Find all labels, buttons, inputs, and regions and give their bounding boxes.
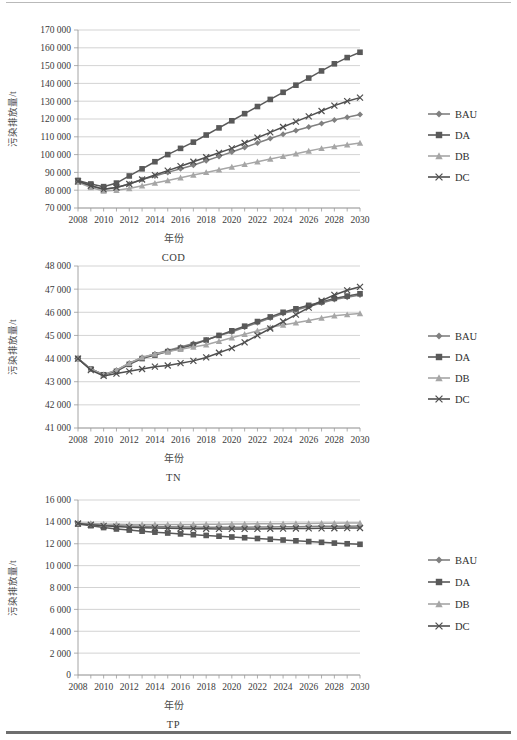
- legend-item-dc[interactable]: DC: [428, 394, 470, 405]
- x-tick-label: 2026: [299, 215, 318, 225]
- x-tick-label: 2026: [299, 435, 318, 445]
- x-tick-label: 2022: [248, 215, 267, 225]
- legend-item-da[interactable]: DA: [428, 577, 471, 588]
- legend-item-bau[interactable]: BAU: [428, 331, 478, 342]
- y-tick-label: 100 000: [40, 150, 71, 160]
- x-axis-title: 年份: [0, 697, 517, 712]
- x-tick-label: 2022: [248, 682, 267, 692]
- series-dc: [75, 284, 363, 379]
- x-tick-label: 2010: [94, 435, 113, 445]
- chart-legend: BAUDADBDC: [428, 109, 478, 183]
- legend-item-db[interactable]: DB: [428, 373, 470, 384]
- y-tick-label: 160 000: [40, 43, 71, 53]
- legend-item-db[interactable]: DB: [428, 151, 470, 162]
- x-tick-label: 2016: [171, 682, 190, 692]
- y-tick-label: 12 000: [45, 539, 71, 549]
- y-tick-label: 47 000: [45, 285, 71, 295]
- x-tick-label: 2020: [222, 435, 241, 445]
- x-tick-label: 2010: [94, 215, 113, 225]
- x-tick-label: 2014: [145, 215, 164, 225]
- chart-legend: BAUDADBDC: [428, 555, 478, 632]
- y-tick-label: 130 000: [40, 97, 71, 107]
- chart-caption-text: TN: [166, 472, 181, 483]
- x-axis-title-text: 年份: [164, 700, 184, 711]
- x-tick-label: 2014: [145, 435, 164, 445]
- x-tick-label: 2016: [171, 435, 190, 445]
- x-tick-label: 2028: [325, 682, 344, 692]
- legend-item-dc[interactable]: DC: [428, 621, 470, 632]
- chart-svg-tp: 02 0004 0006 0008 00010 00012 00014 0001…: [0, 490, 517, 725]
- x-tick-label: 2010: [94, 682, 113, 692]
- page-bottom-rule: [6, 731, 511, 734]
- y-tick-label: 48 000: [45, 261, 71, 271]
- legend-label-dc: DC: [455, 621, 470, 632]
- y-axis-title: 污染排放量/t: [5, 314, 19, 380]
- x-axis-title: 年份: [0, 450, 517, 465]
- chart-block-tp: 02 0004 0006 0008 00010 00012 00014 0001…: [0, 490, 517, 725]
- legend-label-bau: BAU: [455, 331, 478, 342]
- y-tick-label: 90 000: [45, 168, 71, 178]
- legend-item-bau[interactable]: BAU: [428, 109, 478, 120]
- y-tick-label: 6 000: [50, 605, 72, 615]
- x-tick-label: 2026: [299, 682, 318, 692]
- legend-label-bau: BAU: [455, 555, 478, 566]
- chart-canvas-cod: 70 00080 00090 000100 000110 000120 0001…: [0, 20, 517, 259]
- chart-legend: BAUDADBDC: [428, 331, 478, 405]
- chart-caption-text: TP: [167, 719, 180, 730]
- legend-label-dc: DC: [455, 172, 470, 183]
- series-da: [75, 291, 363, 378]
- chart-caption-tn: TN: [0, 472, 517, 483]
- x-tick-label: 2012: [120, 682, 139, 692]
- chart-svg-cod: 70 00080 00090 000100 000110 000120 0001…: [0, 20, 517, 255]
- x-axis-title-text: 年份: [164, 233, 184, 244]
- y-gridlines: 41 00042 00043 00044 00045 00046 00047 0…: [45, 261, 360, 433]
- legend-label-db: DB: [455, 599, 470, 610]
- y-tick-label: 120 000: [40, 114, 71, 124]
- legend-label-da: DA: [455, 352, 471, 363]
- legend-item-db[interactable]: DB: [428, 599, 470, 610]
- y-tick-label: 14 000: [45, 517, 71, 527]
- legend-item-da[interactable]: DA: [428, 352, 471, 363]
- page-top-rule: [6, 2, 511, 3]
- y-tick-label: 140 000: [40, 79, 71, 89]
- series-dc: [75, 95, 363, 193]
- y-tick-label: 4 000: [50, 627, 72, 637]
- x-tick-label: 2028: [325, 215, 344, 225]
- x-tick-label: 2018: [197, 682, 216, 692]
- x-tick-label: 2024: [274, 682, 293, 692]
- x-tick-label: 2008: [69, 215, 88, 225]
- y-tick-label: 41 000: [45, 423, 71, 433]
- y-tick-label: 170 000: [40, 25, 71, 35]
- y-tick-label: 110 000: [40, 132, 71, 142]
- x-tick-label: 2020: [222, 682, 241, 692]
- document-page: 70 00080 00090 000100 000110 000120 0001…: [0, 0, 517, 740]
- x-tick-label: 2028: [325, 435, 344, 445]
- x-tick-label: 2014: [145, 682, 164, 692]
- y-tick-label: 43 000: [45, 377, 71, 387]
- y-axis-title: 污染排放量/t: [5, 555, 19, 621]
- chart-block-tn: 41 00042 00043 00044 00045 00046 00047 0…: [0, 258, 517, 486]
- x-axis-ticks: 2008201020122014201620182020202220242026…: [69, 428, 370, 445]
- y-tick-label: 0: [66, 670, 71, 680]
- x-axis-title: 年份: [0, 230, 517, 245]
- chart-caption-tp: TP: [0, 719, 517, 730]
- legend-item-da[interactable]: DA: [428, 130, 471, 141]
- y-tick-label: 42 000: [45, 400, 71, 410]
- x-tick-label: 2016: [171, 215, 190, 225]
- chart-canvas-tp: 02 0004 0006 0008 00010 00012 00014 0001…: [0, 490, 517, 729]
- y-tick-label: 44 000: [45, 354, 71, 364]
- legend-label-da: DA: [455, 130, 471, 141]
- x-tick-label: 2022: [248, 435, 267, 445]
- x-tick-label: 2024: [274, 435, 293, 445]
- y-tick-label: 10 000: [45, 561, 71, 571]
- legend-label-db: DB: [455, 373, 470, 384]
- x-tick-label: 2030: [351, 215, 370, 225]
- x-tick-label: 2030: [351, 682, 370, 692]
- legend-item-dc[interactable]: DC: [428, 172, 470, 183]
- legend-item-bau[interactable]: BAU: [428, 555, 478, 566]
- x-tick-label: 2012: [120, 435, 139, 445]
- y-tick-label: 8 000: [50, 583, 72, 593]
- x-tick-label: 2012: [120, 215, 139, 225]
- x-tick-label: 2018: [197, 435, 216, 445]
- x-tick-label: 2024: [274, 215, 293, 225]
